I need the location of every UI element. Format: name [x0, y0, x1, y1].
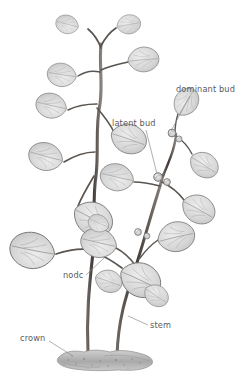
petiole-5: [64, 152, 95, 162]
petiole-1: [78, 71, 100, 76]
label-node: nodc: [63, 270, 84, 280]
leader-latent-bud: [146, 130, 157, 174]
leader-crown: [49, 341, 73, 356]
leaf-right-low-b: [154, 217, 198, 256]
label-dominant-bud: dominant bud: [176, 84, 235, 94]
label-crown: crown: [20, 333, 45, 343]
leaf-upper-right: [127, 45, 161, 74]
dominant-bud-branch: [163, 134, 176, 176]
left-stem: [87, 44, 101, 354]
label-latent-bud: latent bud: [112, 118, 156, 128]
latent-bud-pair: [164, 179, 171, 186]
leaf-group: [7, 12, 223, 311]
leaf-upper-left: [46, 62, 77, 88]
dominant-bud-scale-b: [176, 136, 182, 142]
leaf-node-small-c: [93, 267, 125, 296]
leaf-apex-left: [54, 13, 80, 36]
leaf-right-mid-a: [98, 161, 136, 193]
leaf-lower-left-large: [7, 229, 56, 271]
lower-axillary-bud-b: [144, 233, 150, 239]
petiole-6: [78, 176, 94, 206]
crown-group: [57, 350, 152, 371]
latent-bud-marker: [154, 173, 163, 182]
leader-stem: [128, 316, 148, 325]
apex-stalk-right: [101, 28, 116, 46]
leaf-apex-right: [115, 12, 143, 36]
plant-anatomy-figure: dominant bud latent bud nodc stem crown: [0, 0, 249, 378]
dominant-bud-marker: [168, 129, 176, 137]
leaf-mid-upper-left: [34, 91, 69, 121]
apex-stalk-left: [88, 29, 101, 48]
label-stem: stem: [150, 320, 171, 330]
stem-group: [56, 28, 192, 356]
petiole-11: [134, 182, 160, 186]
plant-diagram-canvas: dominant bud latent bud nodc stem crown: [0, 0, 249, 378]
crown-mound: [57, 350, 152, 371]
leaf-mid-left: [26, 140, 65, 174]
petiole-2: [101, 62, 128, 70]
petiole-3: [68, 104, 97, 110]
lower-axillary-bud: [135, 229, 142, 236]
